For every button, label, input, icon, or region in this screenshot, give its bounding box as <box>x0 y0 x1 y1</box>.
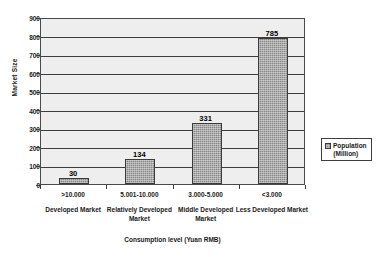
x-tick-mark <box>173 185 174 189</box>
x-axis-title: Consumption level (Yuan RMB) <box>40 236 305 243</box>
legend-item-population: Population <box>325 142 367 149</box>
bar[interactable] <box>258 38 288 184</box>
x-tick-mark <box>106 185 107 189</box>
legend-swatch-icon <box>325 143 331 149</box>
y-tick-label: 0 <box>6 182 40 189</box>
bar-chart: Market Size 0100200300400500600700800900… <box>0 0 387 257</box>
y-tick-label: 400 <box>6 107 40 114</box>
legend-label: Population <box>333 142 367 149</box>
x-tick-label: <3.000 <box>262 191 282 198</box>
x-tick-mark <box>40 185 41 189</box>
x-tick-label: 3.000-5.000 <box>188 191 223 198</box>
y-tick-label: 500 <box>6 89 40 96</box>
bar-value-label: 331 <box>199 114 212 123</box>
bar-value-label: 30 <box>69 169 77 178</box>
bar[interactable] <box>59 178 89 184</box>
y-tick-label: 100 <box>6 163 40 170</box>
x-tick-mark <box>239 185 240 189</box>
y-tick-label: 200 <box>6 144 40 151</box>
legend: Population (Million) <box>321 138 372 161</box>
y-axis-ticks: 0100200300400500600700800900 <box>0 18 40 185</box>
x-tick-label: 5.001-10.000 <box>120 191 158 198</box>
y-tick-label: 800 <box>6 33 40 40</box>
y-tick-label: 900 <box>6 15 40 22</box>
bar[interactable] <box>192 123 222 184</box>
plot-area <box>40 18 305 185</box>
bar-value-label: 134 <box>133 150 146 159</box>
bar-value-label: 785 <box>266 29 279 38</box>
y-tick-label: 700 <box>6 52 40 59</box>
bar[interactable] <box>125 159 155 184</box>
x-tick-mark <box>305 185 306 189</box>
x-tick-label: >10.000 <box>61 191 85 198</box>
x-category-label: Less Developed Market <box>233 205 311 214</box>
y-tick-label: 300 <box>6 126 40 133</box>
y-tick-label: 600 <box>6 70 40 77</box>
legend-sublabel: (Million) <box>325 150 367 157</box>
